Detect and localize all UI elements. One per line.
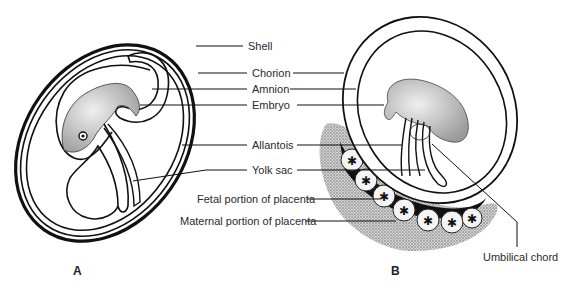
svg-text:✱: ✱ <box>447 216 457 230</box>
panel-label-a: A <box>73 264 82 278</box>
label-embryo: Embryo <box>252 99 290 111</box>
label-yolk-sac: Yolk sac <box>252 164 293 176</box>
label-chorion: Chorion <box>252 67 291 79</box>
label-umbilical-chord: Umbilical chord <box>483 251 558 263</box>
label-fetal-placenta: Fetal portion of placenta <box>197 193 315 205</box>
svg-text:✱: ✱ <box>467 212 477 226</box>
label-amnion: Amnion <box>252 83 289 95</box>
svg-text:✱: ✱ <box>361 174 371 188</box>
label-shell: Shell <box>248 40 272 52</box>
svg-text:✱: ✱ <box>347 154 357 168</box>
embryo-a <box>62 83 139 152</box>
label-maternal-placenta: Maternal portion of placenta <box>180 215 316 227</box>
svg-text:✱: ✱ <box>423 214 433 228</box>
embryo-b: ✱✱✱ ✱✱✱✱ <box>309 0 550 251</box>
panel-label-b: B <box>391 264 400 278</box>
svg-text:✱: ✱ <box>379 190 389 204</box>
egg-a <box>0 10 231 275</box>
svg-text:✱: ✱ <box>399 204 409 218</box>
label-allantois: Allantois <box>252 139 294 151</box>
